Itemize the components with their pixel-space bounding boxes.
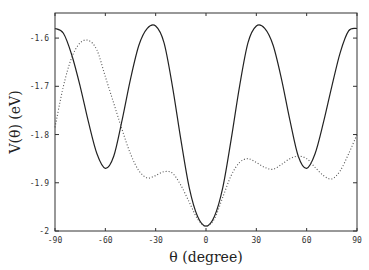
y-tick-label: -1.6 (30, 34, 49, 43)
x-tick-label: -90 (48, 236, 63, 245)
axes-frame (55, 13, 357, 231)
dotted-curve (55, 40, 357, 226)
y-tick-label: -1.7 (30, 82, 49, 91)
x-tick-label: 90 (352, 236, 362, 245)
potential-energy-chart: -90-60-300306090 -1.6-1.7-1.8-1.9-2 θ (d… (0, 0, 369, 270)
y-axis-label: V(θ) (eV) (7, 90, 23, 154)
y-tick-label: -1.8 (30, 131, 49, 140)
x-tick-label: 0 (204, 236, 209, 245)
y-tick-label: -2 (39, 227, 49, 236)
x-tick-label: -60 (98, 236, 113, 245)
y-tick-label: -1.9 (30, 179, 49, 188)
x-tick-label: 60 (302, 236, 312, 245)
x-axis-ticks: -90-60-300306090 (48, 13, 362, 245)
x-tick-label: -30 (148, 236, 163, 245)
x-axis-label: θ (degree) (169, 249, 242, 265)
solid-curve (55, 25, 357, 226)
x-tick-label: 30 (252, 236, 262, 245)
plot-area (55, 25, 357, 226)
